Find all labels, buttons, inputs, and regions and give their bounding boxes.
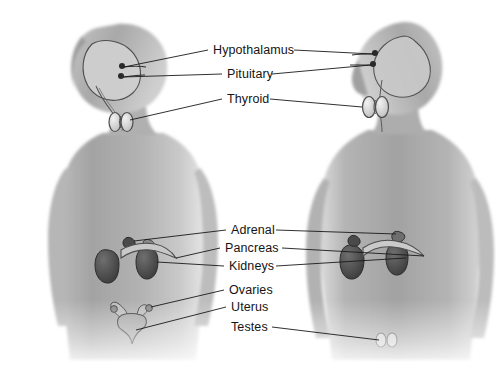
- female-hypothalamus-marker: [119, 63, 125, 69]
- label-adrenal: Adrenal: [231, 224, 275, 237]
- label-testes: Testes: [231, 321, 268, 334]
- label-hypothalamus: Hypothalamus: [213, 44, 294, 57]
- label-kidneys: Kidneys: [229, 260, 274, 273]
- label-pancreas: Pancreas: [225, 242, 279, 255]
- label-ovaries: Ovaries: [229, 284, 273, 297]
- male-hypothalamus-marker: [372, 50, 378, 56]
- male-pituitary-marker: [370, 61, 376, 67]
- label-thyroid: Thyroid: [227, 93, 269, 106]
- label-uterus: Uterus: [231, 301, 268, 314]
- endocrine-system-diagram: Hypothalamus Pituitary Thyroid Adrenal P…: [0, 0, 496, 372]
- female-pituitary-marker: [118, 73, 124, 79]
- label-pituitary: Pituitary: [227, 68, 273, 81]
- leader-thyroid-male: [270, 99, 362, 107]
